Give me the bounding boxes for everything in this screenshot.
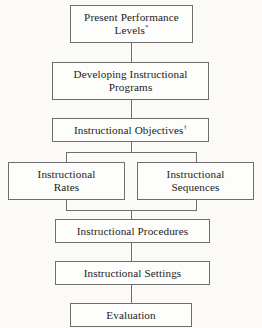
node-line-2: Rates [54, 181, 79, 193]
node-instructional-objectives[interactable]: Instructional Objectives† [52, 118, 209, 142]
node-label: Instructional Settings [81, 267, 185, 280]
node-instructional-sequences[interactable]: InstructionalSequences [137, 162, 254, 200]
edge-objectives-to-sequences [196, 152, 197, 162]
node-instructional-rates[interactable]: InstructionalRates [8, 162, 125, 200]
node-label: Evaluation [103, 309, 158, 322]
node-instructional-settings[interactable]: Instructional Settings [55, 261, 210, 285]
node-label: Present PerformanceLevels* [81, 11, 182, 37]
node-line-1: Developing Instructional [74, 68, 188, 80]
node-line-2: Levels [114, 24, 144, 36]
node-line-1: Instructional Objectives [74, 124, 184, 136]
node-label: Instructional Procedures [74, 225, 191, 238]
footnote-marker-asterisk: * [145, 23, 149, 31]
edge-rates-to-merge [66, 200, 67, 210]
node-label: Instructional Objectives† [71, 124, 190, 137]
footnote-marker-dagger: † [183, 123, 187, 131]
edge-objectives-to-rates [66, 152, 67, 162]
node-line-1: Instructional [167, 168, 225, 180]
edge-programs-to-objectives [131, 100, 132, 118]
edge-objectives-split-stem [131, 142, 132, 152]
node-instructional-procedures[interactable]: Instructional Procedures [55, 219, 210, 243]
edge-procedures-to-settings [131, 243, 132, 261]
edge-merge-to-procedures [131, 210, 132, 219]
node-present-performance-levels[interactable]: Present PerformanceLevels* [70, 5, 193, 43]
edge-levels-to-programs [131, 43, 132, 62]
node-label: Developing InstructionalPrograms [71, 68, 191, 94]
node-line-1: Instructional [38, 168, 96, 180]
edge-settings-to-evaluation [131, 285, 132, 303]
flowchart-diagram: Present PerformanceLevels* Developing In… [0, 0, 262, 328]
node-line-1: Present Performance [84, 11, 179, 23]
node-label: InstructionalRates [35, 168, 99, 194]
node-developing-instructional-programs[interactable]: Developing InstructionalPrograms [52, 62, 209, 100]
node-line-2: Sequences [171, 181, 219, 193]
node-evaluation[interactable]: Evaluation [70, 303, 192, 327]
edge-objectives-split-bar [66, 152, 197, 153]
node-line-2: Programs [109, 81, 153, 93]
node-label: InstructionalSequences [164, 168, 228, 194]
edge-sequences-to-merge [196, 200, 197, 210]
